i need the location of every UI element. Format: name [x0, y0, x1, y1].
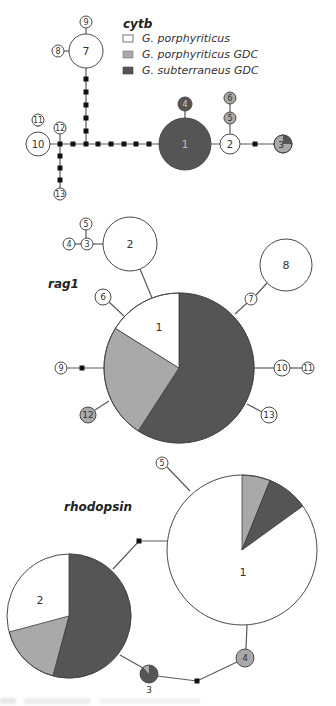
cytb-node-9-label: 9 [83, 18, 88, 27]
rag1-node-1 [104, 293, 254, 443]
rag1-node-1-label: 1 [156, 321, 163, 334]
rag1-edge-7-8 [256, 283, 267, 295]
cytb-node-12-label: 12 [55, 124, 65, 133]
legend-swatch-subterraneus-gdc [123, 67, 133, 74]
rhodopsin-node-1-label: 1 [240, 566, 247, 579]
legend-swatch-porphyriticus [123, 35, 133, 42]
rag1-node-12-label: 12 [82, 410, 93, 420]
legend-label-porphyriticus-gdc: G. porphyriticus GDC [142, 48, 258, 61]
legend-label-porphyriticus: G. porphyriticus [142, 32, 230, 45]
rag1-node-7-label: 7 [248, 295, 253, 304]
mutation-step [58, 142, 63, 147]
mutation-step [96, 142, 101, 147]
legend-title: cytb [123, 17, 153, 31]
rag1-edge-1-7 [235, 303, 247, 314]
cytb-node-10-label: 10 [32, 139, 45, 150]
rhodopsin-edge-4-1 [246, 625, 247, 649]
rag1-node-8-label: 8 [283, 259, 290, 272]
cytb-node-4-label: 4 [182, 100, 187, 109]
rhodopsin-node-1 [167, 475, 317, 625]
mutation-step [84, 142, 89, 147]
rhodopsin-node-3-label: 3 [146, 685, 152, 695]
rag1-title: rag1 [48, 277, 79, 291]
cytb-node-5-label: 5 [227, 114, 232, 123]
rag1-node-3-label: 3 [84, 240, 89, 249]
cytb-node-13-label: 13 [55, 190, 65, 199]
legend-swatch-porphyriticus-gdc [123, 51, 133, 58]
rhodopsin-edge-2-3 [120, 655, 143, 668]
mutation-step [122, 142, 127, 147]
rhodopsin-node-5-label: 5 [159, 459, 164, 468]
mutation-step [58, 166, 63, 171]
rag1-edge-1-2 [140, 269, 152, 298]
mutation-step [84, 77, 89, 82]
rag1-node-10-label: 10 [276, 363, 288, 373]
legend-label-subterraneus-gdc: G. subterraneus GDC [142, 64, 259, 77]
rag1-node-5-label: 5 [83, 220, 88, 229]
rag1-network: rag1 1 2 3 4 5 6 7 [48, 217, 314, 443]
cytb-node-7-label: 7 [83, 45, 90, 58]
rag1-node-13-label: 13 [263, 410, 274, 420]
rhodopsin-title: rhodopsin [64, 500, 132, 514]
rag1-edge-1-12 [95, 401, 109, 410]
mutation-step [58, 154, 63, 159]
rhodopsin-node-3 [140, 665, 158, 683]
cytb-node-6-label: 6 [227, 94, 232, 103]
mutation-step [137, 539, 142, 544]
legend: cytb G. porphyriticus G. porphyriticus G… [123, 17, 259, 77]
rag1-node-2-label: 2 [127, 238, 134, 251]
rhodopsin-node-2 [7, 554, 131, 678]
mutation-step [71, 142, 76, 147]
mutation-step [253, 142, 258, 147]
mutation-step [147, 142, 152, 147]
rhodopsin-network: rhodopsin 1 2 3 [7, 457, 317, 695]
cytb-node-2-label: 2 [227, 139, 233, 150]
rhodopsin-node-4-label: 4 [242, 653, 248, 663]
mutation-step [84, 90, 89, 95]
rag1-node-11-label: 11 [303, 364, 313, 373]
rag1-node-6-label: 6 [100, 292, 106, 302]
rhodopsin-edge-1-2 [113, 541, 167, 569]
cropped-caption-fragment [0, 698, 200, 704]
mutation-step [134, 142, 139, 147]
cytb-node-1-label: 1 [182, 138, 189, 151]
rag1-node-4-label: 4 [66, 240, 71, 249]
cytb-node-8-label: 8 [55, 47, 60, 56]
rag1-edge-1-6 [109, 302, 124, 316]
rag1-node-9-label: 9 [58, 364, 63, 373]
mutation-step [84, 116, 89, 121]
mutation-step [84, 129, 89, 134]
rhodopsin-node-2-label: 2 [37, 594, 44, 607]
mutation-step [109, 142, 114, 147]
mutation-step [195, 679, 200, 684]
rhodopsin-edge-3-4 [157, 662, 237, 681]
mutation-step [80, 366, 85, 371]
cytb-node-11-label: 11 [33, 116, 43, 125]
haplotype-networks-figure: 7 9 8 10 11 12 13 1 4 2 5 6 3 cytb G. p [0, 0, 336, 706]
cytb-node-3-label: 3 [278, 140, 284, 150]
rhodopsin-edge-1-5 [167, 467, 190, 491]
rag1-edge-1-13 [247, 404, 262, 412]
mutation-step [58, 178, 63, 183]
mutation-step [84, 103, 89, 108]
